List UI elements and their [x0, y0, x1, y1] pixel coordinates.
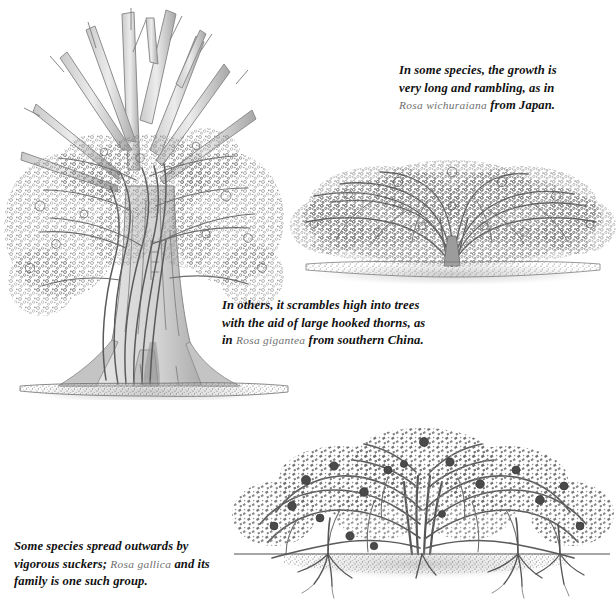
- caption-suckering-growth: Some species spread outwards by vigorous…: [14, 538, 210, 591]
- caption-scrambling-growth: In others, it scrambles high into trees …: [222, 297, 425, 350]
- caption-scrambling-line2: with the aid of large hooked thorns, as: [222, 315, 425, 333]
- caption-scrambling-line3-rest: from southern China.: [305, 333, 423, 347]
- caption-scrambling-line1: In others, it scrambles high into trees: [222, 297, 425, 315]
- suckering-shrub-drawing: [228, 418, 616, 603]
- illustration-page: In some species, the growth is very long…: [0, 0, 616, 605]
- caption-suckering-line1: Some species spread outwards by: [14, 538, 210, 556]
- figure-suckering-shrub: [228, 418, 616, 603]
- caption-suckering-line2-rest: and its: [171, 557, 210, 571]
- figure-rambler-mound: [288, 140, 616, 290]
- caption-suckering-line3: family is one such group.: [14, 573, 210, 591]
- caption-rambling-growth: In some species, the growth is very long…: [399, 62, 557, 115]
- caption-scrambling-line3-prefix: in: [222, 333, 236, 347]
- tree-ground-line: [20, 383, 288, 397]
- caption-rambling-line2: very long and rambling, as in: [399, 80, 557, 98]
- caption-rambling-line3: Rosa wichuraiana from Japan.: [399, 97, 557, 115]
- species-name-rosa-gigantea: Rosa gigantea: [236, 334, 305, 346]
- species-name-rosa-wichuraiana: Rosa wichuraiana: [399, 99, 487, 111]
- caption-scrambling-line3: in Rosa gigantea from southern China.: [222, 332, 425, 350]
- rambler-mound-drawing: [288, 140, 616, 290]
- shrub-fine-roots: [302, 584, 569, 598]
- caption-rambling-line3-rest: from Japan.: [487, 98, 555, 112]
- caption-suckering-line2: vigorous suckers; Rosa gallica and its: [14, 556, 210, 574]
- caption-rambling-line1: In some species, the growth is: [399, 62, 557, 80]
- species-name-rosa-gallica: Rosa gallica: [110, 558, 171, 570]
- caption-suckering-line2-prefix: vigorous suckers;: [14, 557, 110, 571]
